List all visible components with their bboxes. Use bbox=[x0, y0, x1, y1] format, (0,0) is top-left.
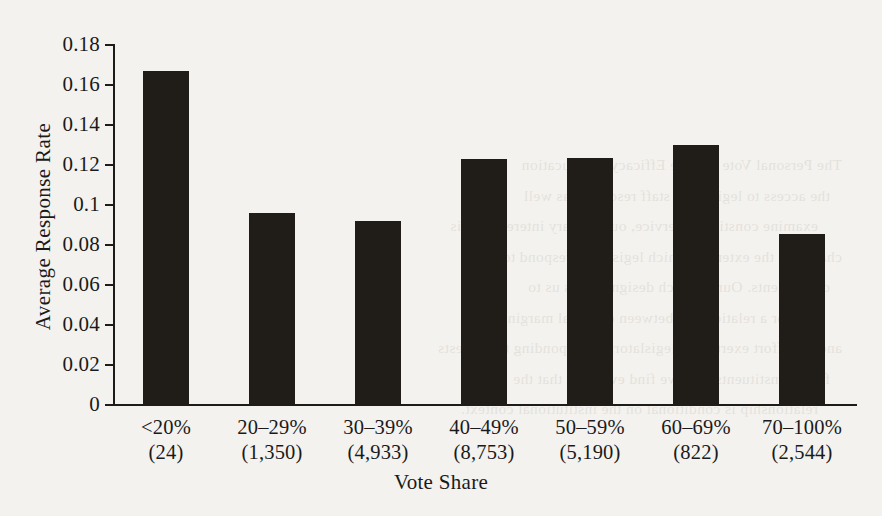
y-axis-title: Average Response Rate bbox=[31, 77, 56, 377]
y-tick-mark bbox=[105, 404, 114, 406]
bar-chart: 0.180.160.140.120.10.080.060.040.020 <20… bbox=[0, 0, 882, 516]
bar bbox=[673, 145, 719, 405]
y-tick-label: 0.18 bbox=[40, 34, 100, 55]
bar bbox=[355, 221, 401, 405]
y-tick-mark bbox=[105, 204, 114, 206]
y-tick-mark bbox=[105, 244, 114, 246]
bar bbox=[143, 71, 189, 405]
y-tick-mark bbox=[105, 124, 114, 126]
y-tick-mark bbox=[105, 284, 114, 286]
x-axis-label: 70–100%(2,544) bbox=[732, 415, 872, 465]
y-axis-line bbox=[113, 44, 115, 406]
y-tick-mark bbox=[105, 364, 114, 366]
bar bbox=[567, 158, 613, 405]
y-tick-mark bbox=[105, 164, 114, 166]
y-tick-mark bbox=[105, 44, 114, 46]
bar bbox=[249, 213, 295, 405]
x-axis-title: Vote Share bbox=[0, 470, 882, 495]
bar bbox=[461, 159, 507, 405]
bar-series bbox=[113, 45, 855, 405]
y-tick-label: 0 bbox=[40, 394, 100, 415]
x-axis-line bbox=[113, 404, 857, 406]
y-tick-mark bbox=[105, 324, 114, 326]
x-label-range: 70–100% bbox=[732, 415, 872, 440]
bar bbox=[779, 234, 825, 405]
y-tick-mark bbox=[105, 84, 114, 86]
x-label-count: (2,544) bbox=[732, 440, 872, 465]
